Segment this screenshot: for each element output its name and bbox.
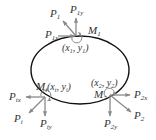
force-diagram: P1 P1y P1x M1 (x1, y1) Pix Pi Piy Mi (xi… — [0, 0, 156, 140]
force-arrow-p1 — [63, 21, 76, 36]
label-coord-1: (x1, y1) — [62, 42, 89, 54]
label-pix: Pix — [8, 90, 22, 104]
label-p2: P2 — [133, 109, 145, 123]
force-arrow-pi — [29, 97, 45, 113]
label-mi: Mi — [35, 80, 47, 94]
label-p1y: P1y — [69, 3, 84, 17]
label-p2x: P2x — [133, 88, 148, 102]
point-1-group: P1 P1y P1x M1 (x1, y1) — [44, 3, 101, 54]
label-coord-i: (xi, yi) — [47, 81, 72, 93]
point-2-group: P2x P2 P2y M2 (x2, y2) — [91, 77, 148, 131]
label-pi: Pi — [13, 112, 23, 126]
label-p1x: P1x — [44, 28, 59, 42]
force-arrow-p2 — [110, 95, 131, 112]
label-p1: P1 — [49, 7, 60, 21]
label-m1: M1 — [87, 24, 101, 38]
label-p2y: P2y — [103, 117, 118, 131]
label-piy: Piy — [39, 117, 53, 131]
label-coord-2: (x2, y2) — [91, 77, 118, 89]
point-i-group: Pix Pi Piy Mi (xi, yi) — [8, 80, 72, 131]
